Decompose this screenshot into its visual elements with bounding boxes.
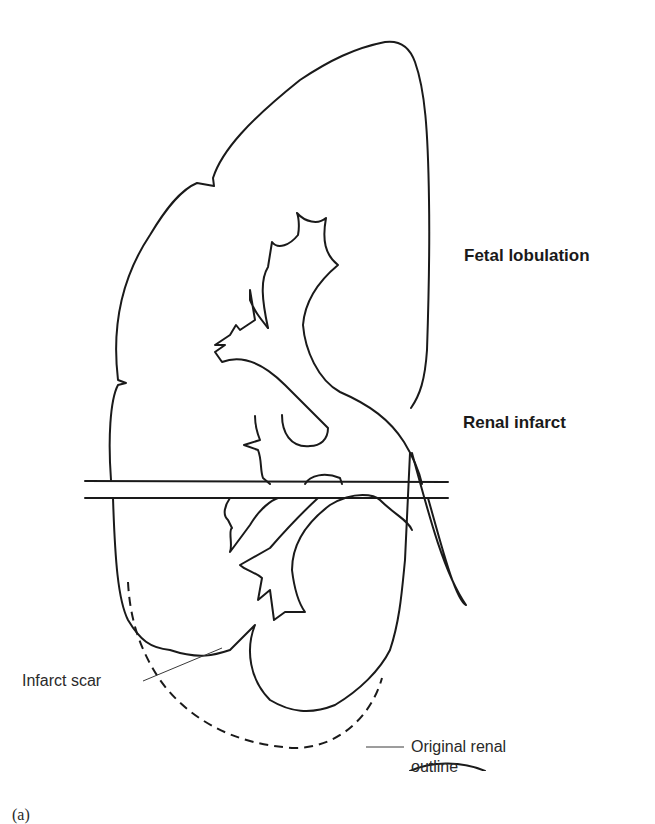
upper-calyx-branch [215,290,328,446]
original-outline-label-line1: Original renal [411,737,506,757]
middle-calyx [244,416,270,484]
lower-calyx [225,498,278,552]
original-outline-label-line2: outline [411,757,458,777]
infarct-scar-label: Infarct scar [22,671,101,691]
lower-calyx-branch [240,495,412,620]
upper-calyx [263,213,422,484]
original-renal-outline [128,582,382,748]
panel-label: (a) [12,806,30,824]
section-line-top [85,481,448,482]
renal-infarct-label: Renal infarct [463,413,566,433]
fetal-lobulation-label: Fetal lobulation [464,246,590,266]
